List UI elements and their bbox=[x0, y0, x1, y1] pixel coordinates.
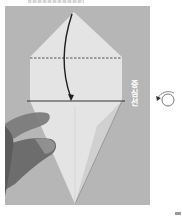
clipped-caption-text bbox=[28, 0, 84, 3]
turn-over-icon bbox=[154, 88, 178, 110]
page-mark bbox=[175, 212, 181, 215]
center-line-label: 중심선 bbox=[127, 80, 139, 116]
